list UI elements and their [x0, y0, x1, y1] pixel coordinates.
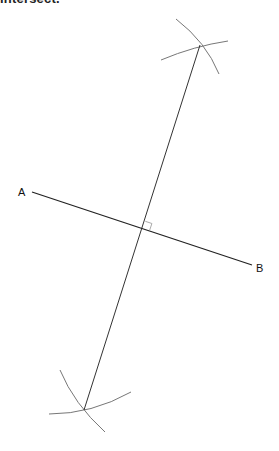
bottom-arc-from-B	[49, 392, 131, 414]
right-angle-marker	[145, 221, 152, 230]
perpendicular-bisector-line	[84, 45, 200, 410]
construction-arcs	[49, 19, 228, 432]
point-label-b: B	[256, 262, 263, 274]
perpendicular-bisector-diagram: A B	[0, 0, 279, 451]
bottom-arc-from-A	[60, 370, 105, 432]
top-arc-from-B	[161, 41, 228, 60]
point-label-a: A	[18, 186, 26, 198]
top-arc-from-A	[176, 19, 219, 74]
segment-ab	[32, 192, 252, 265]
